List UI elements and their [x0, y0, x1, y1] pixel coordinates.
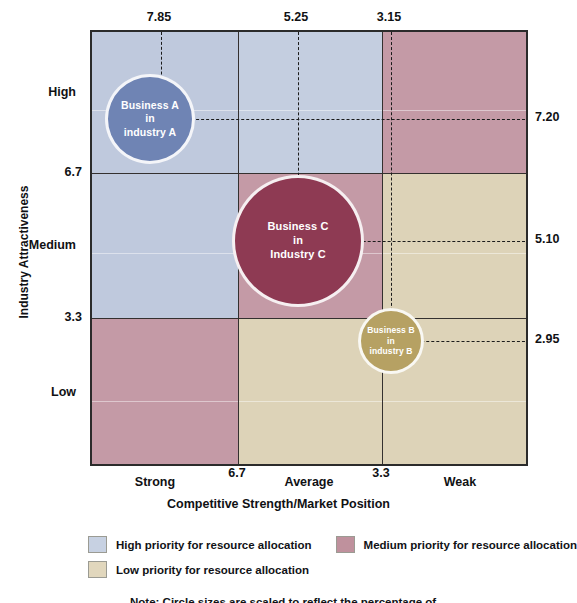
legend-swatch-low-icon: [88, 561, 107, 578]
bubble-business-c[interactable]: Business C in Industry C: [232, 175, 364, 307]
guide-vertical-business-b: [391, 32, 392, 341]
legend-label-medium: Medium priority for resource allocation: [364, 539, 577, 551]
matrix-plot-area: Business A in industry A Business C in I…: [90, 30, 528, 466]
bubble-c-line-2: in: [293, 234, 303, 248]
chart-note: Note: Circle sizes are scaled to reflect…: [130, 595, 550, 603]
bubble-business-a[interactable]: Business A in industry A: [105, 74, 195, 164]
bubble-b-line-2: in: [387, 336, 395, 347]
bubble-a-line-2: in: [145, 112, 155, 125]
legend-row-1: High priority for resource allocation Me…: [88, 536, 548, 553]
right-tick-label-720: 7.20: [535, 110, 559, 124]
bubble-b-line-3: industry B: [369, 346, 412, 357]
legend-item-high-priority[interactable]: High priority for resource allocation: [88, 536, 312, 553]
bubble-c-line-3: Industry C: [270, 248, 325, 262]
y-category-label-high: High: [0, 85, 76, 99]
guide-horizontal-business-a: [161, 119, 528, 120]
legend: High priority for resource allocation Me…: [88, 536, 548, 586]
cell-high-weak: [383, 32, 528, 174]
top-tick-label-525: 5.25: [284, 10, 308, 24]
x-category-label-average: Average: [285, 475, 334, 489]
top-tick-label-315: 3.15: [377, 10, 401, 24]
y-category-label-low: Low: [0, 385, 76, 399]
legend-item-medium-priority[interactable]: Medium priority for resource allocation: [336, 536, 577, 553]
x-axis-title: Competitive Strength/Market Position: [0, 497, 557, 511]
bubble-business-b[interactable]: Business B in industry B: [358, 308, 424, 374]
right-tick-label-510: 5.10: [535, 232, 559, 246]
cell-high-average: [239, 32, 383, 174]
y-tick-label-67: 6.7: [0, 165, 82, 179]
legend-item-low-priority[interactable]: Low priority for resource allocation: [88, 561, 309, 578]
cell-medium-weak: [383, 174, 528, 319]
x-tick-label-33: 3.3: [372, 466, 389, 480]
y-tick-label-33: 3.3: [0, 310, 82, 324]
top-tick-label-785: 7.85: [147, 10, 171, 24]
bubble-b-line-1: Business B: [367, 325, 414, 336]
legend-row-2: Low priority for resource allocation: [88, 561, 548, 578]
right-tick-label-295: 2.95: [535, 332, 559, 346]
y-category-label-medium: Medium: [0, 238, 76, 252]
legend-label-low: Low priority for resource allocation: [116, 564, 309, 576]
bubble-a-line-3: industry A: [124, 126, 177, 139]
y-axis-title: Industry Attractiveness: [17, 152, 31, 352]
x-tick-label-67: 6.7: [228, 466, 245, 480]
bubble-c-line-1: Business C: [268, 220, 329, 234]
cell-medium-strong: [92, 174, 239, 319]
x-category-label-weak: Weak: [444, 475, 476, 489]
cell-low-strong: [92, 319, 239, 466]
legend-swatch-medium-icon: [336, 536, 355, 553]
bubble-a-line-1: Business A: [121, 99, 179, 112]
legend-swatch-high-icon: [88, 536, 107, 553]
legend-label-high: High priority for resource allocation: [116, 539, 312, 551]
x-category-label-strong: Strong: [135, 475, 175, 489]
